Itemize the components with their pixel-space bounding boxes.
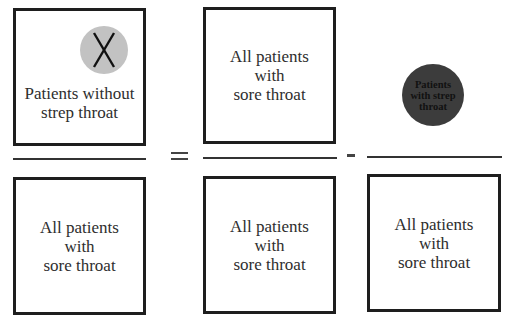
fraction-line-left bbox=[13, 158, 146, 160]
denominator-label-left: All patients with sore throat bbox=[40, 218, 119, 275]
denominator-box-left: All patients with sore throat bbox=[13, 177, 146, 315]
denominator-label-middle: All patients with sore throat bbox=[230, 217, 309, 274]
label-line: with bbox=[395, 234, 474, 253]
fraction-line-right bbox=[367, 156, 502, 158]
minus-sign bbox=[347, 154, 355, 157]
strep-throat-circle: Patients with strep throat bbox=[402, 64, 464, 126]
label-line: with strep bbox=[410, 90, 455, 101]
numerator-label-without-strep: Patients without strep throat bbox=[16, 84, 143, 122]
label-line: Patients without bbox=[16, 84, 143, 103]
strep-throat-label: Patients with strep throat bbox=[410, 79, 455, 112]
fraction-line-middle bbox=[203, 157, 337, 159]
numerator-label-all-sore-throat: All patients with sore throat bbox=[230, 47, 309, 104]
label-line: All patients bbox=[40, 218, 119, 237]
label-line: with bbox=[230, 236, 309, 255]
denominator-box-middle: All patients with sore throat bbox=[203, 176, 336, 314]
denominator-box-right: All patients with sore throat bbox=[367, 174, 501, 312]
label-line: sore throat bbox=[40, 256, 119, 275]
label-line: All patients bbox=[395, 215, 474, 234]
label-line: strep throat bbox=[16, 103, 143, 122]
numerator-box-without-strep: Patients without strep throat bbox=[13, 8, 146, 146]
label-line: with bbox=[230, 66, 309, 85]
label-line: All patients bbox=[230, 217, 309, 236]
denominator-label-right: All patients with sore throat bbox=[395, 215, 474, 272]
label-line: sore throat bbox=[230, 85, 309, 104]
label-line: sore throat bbox=[395, 253, 474, 272]
label-line: All patients bbox=[230, 47, 309, 66]
numerator-box-all-sore-throat: All patients with sore throat bbox=[203, 7, 336, 144]
label-line: with bbox=[40, 237, 119, 256]
label-line: sore throat bbox=[230, 255, 309, 274]
x-mark-icon bbox=[84, 29, 124, 71]
label-line: Patients bbox=[410, 79, 455, 90]
x-in-circle-icon bbox=[80, 26, 128, 74]
label-line: throat bbox=[410, 101, 455, 112]
